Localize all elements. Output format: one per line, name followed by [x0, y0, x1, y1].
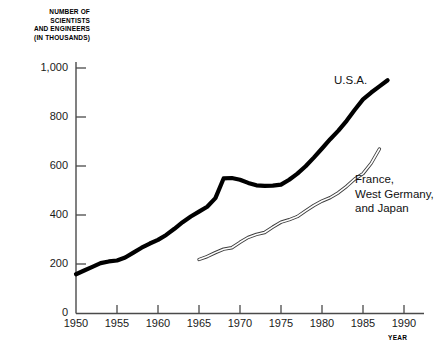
x-axis-ticks	[117, 305, 404, 314]
series-label-others-line-2: West Germany,	[355, 187, 434, 202]
x-tick-label-1980: 1980	[299, 318, 345, 329]
y-tick-label-200: 200	[22, 258, 68, 269]
series-line-others-outline	[199, 149, 379, 259]
y-tick-label-1000: 1,000	[22, 62, 68, 73]
x-tick-label-1955: 1955	[94, 318, 140, 329]
series-label-usa: U.S.A.	[334, 73, 367, 88]
chart-container: NUMBER OF SCIENTISTS AND ENGINEERS (IN T…	[0, 0, 441, 347]
x-axis-title: YEAR	[388, 334, 407, 341]
series-line-usa	[76, 80, 388, 274]
x-tick-label-1990: 1990	[381, 318, 427, 329]
series-line-others-fill	[199, 149, 379, 259]
y-tick-label-0: 0	[22, 307, 68, 318]
x-tick-label-1950: 1950	[53, 318, 99, 329]
series-label-others-line-1: France,	[355, 172, 434, 187]
x-tick-label-1960: 1960	[135, 318, 181, 329]
series-label-others-line-3: and Japan	[355, 201, 434, 216]
y-tick-label-800: 800	[22, 111, 68, 122]
x-tick-label-1970: 1970	[217, 318, 263, 329]
y-tick-label-400: 400	[22, 209, 68, 220]
y-axis-ticks	[76, 68, 86, 264]
y-tick-label-600: 600	[22, 160, 68, 171]
x-tick-label-1985: 1985	[340, 318, 386, 329]
series-label-others: France, West Germany, and Japan	[355, 172, 434, 216]
x-tick-label-1965: 1965	[176, 318, 222, 329]
x-tick-label-1975: 1975	[258, 318, 304, 329]
